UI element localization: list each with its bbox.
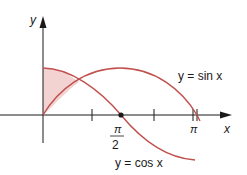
cos-curve-label: y = cos x xyxy=(115,156,163,170)
half-pi-numerator: π xyxy=(114,123,122,135)
y-axis-arrow-icon xyxy=(40,16,47,28)
half-pi-point xyxy=(118,112,123,117)
pi-tick-label: π xyxy=(190,123,198,135)
half-pi-denominator: 2 xyxy=(112,138,119,152)
y-axis-label: y xyxy=(29,13,37,27)
x-axis-arrow-icon xyxy=(220,112,232,119)
sin-curve-label: y = sin x xyxy=(178,69,222,83)
x-axis-label: x xyxy=(223,122,231,136)
graph-canvas: y x π 2 π y = sin x y = cos x xyxy=(0,0,247,175)
